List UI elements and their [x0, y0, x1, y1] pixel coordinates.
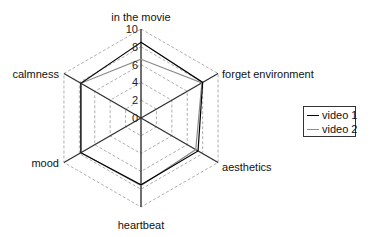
legend-item-video-2: video 2	[307, 122, 357, 136]
axis-calmness	[64, 74, 141, 119]
radar-axes	[64, 29, 218, 207]
axis-label-mood: mood	[31, 157, 59, 169]
axis-label-forget-environment: forget environment	[222, 68, 314, 80]
axis-mood	[64, 118, 141, 163]
tick-label-2: 2	[132, 94, 138, 106]
axis-label-calmness: calmness	[12, 68, 59, 80]
legend-swatch-video-1	[307, 115, 319, 116]
legend-item-video-1: video 1	[307, 108, 357, 122]
axis-label-heartbeat: heartbeat	[118, 219, 164, 231]
axis-forget-environment	[141, 74, 218, 119]
axis-label-aesthetics: aesthetics	[222, 161, 272, 173]
axis-labels: in the movieforget environmentaesthetics…	[12, 11, 313, 231]
tick-label-4: 4	[132, 76, 138, 88]
tick-label-10: 10	[126, 23, 138, 35]
axis-label-in-the-movie: in the movie	[111, 11, 170, 23]
radial-tick-labels: 0246810	[126, 23, 138, 124]
tick-label-0: 0	[132, 112, 138, 124]
legend: video 1 video 2	[303, 106, 356, 137]
radar-series	[81, 42, 203, 185]
legend-label: video 2	[322, 123, 357, 135]
tick-label-8: 8	[132, 41, 138, 53]
legend-swatch-video-2	[307, 129, 319, 130]
tick-label-6: 6	[132, 59, 138, 71]
axis-aesthetics	[141, 118, 218, 163]
legend-label: video 1	[322, 109, 357, 121]
